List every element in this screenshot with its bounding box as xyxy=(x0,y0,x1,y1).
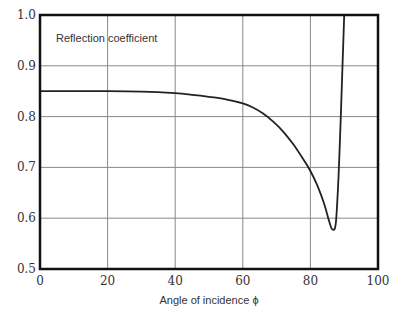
y-tick-label: 0.7 xyxy=(17,160,36,174)
x-tick-label: 60 xyxy=(235,274,250,288)
x-tick-label: 80 xyxy=(303,274,318,288)
x-tick-label: 40 xyxy=(168,274,183,288)
x-tick-label: 0 xyxy=(36,274,44,288)
annotation-reflection-coefficient: Reflection coefficient xyxy=(56,32,157,44)
series-line-reflection-coefficient xyxy=(40,15,344,230)
x-tick-labels: 020406080100 xyxy=(36,274,389,288)
x-axis-label: Angle of incidence ϕ xyxy=(159,294,258,306)
grid xyxy=(40,15,378,269)
plot-frame xyxy=(40,15,378,269)
series-layer xyxy=(40,15,344,230)
y-tick-label: 0.5 xyxy=(17,262,36,276)
x-tick-label: 20 xyxy=(100,274,115,288)
y-tick-label: 0.8 xyxy=(17,110,36,124)
reflection-chart: 020406080100 0.50.60.70.80.91.0 Reflecti… xyxy=(0,0,401,318)
y-tick-labels: 0.50.60.70.80.91.0 xyxy=(17,8,36,276)
y-tick-label: 0.9 xyxy=(17,59,36,73)
x-tick-label: 100 xyxy=(367,274,390,288)
y-tick-label: 0.6 xyxy=(17,211,36,225)
y-tick-label: 1.0 xyxy=(17,8,36,22)
